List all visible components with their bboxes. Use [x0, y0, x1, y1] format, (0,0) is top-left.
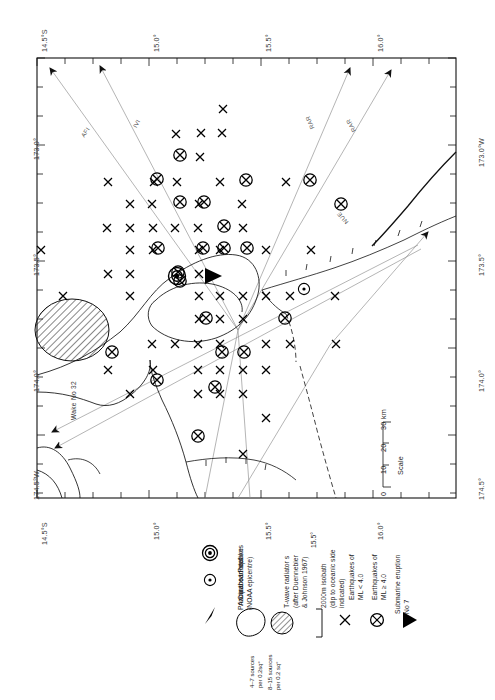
wake-label: Wake No 32	[70, 381, 77, 420]
earthquake-crosses	[37, 105, 340, 458]
axis-label-top-0: 14.5°S	[40, 29, 49, 52]
scale-tick-0: 0	[379, 492, 388, 496]
legend-isobath-icon	[316, 609, 322, 637]
legend-bullseye-icon	[203, 546, 218, 561]
axis-label-top-2: 15.5°	[264, 34, 273, 52]
axis-label-top-3: 16.0°	[376, 34, 385, 52]
legend-label-twave-2: (after Duennebier	[292, 555, 300, 608]
axis-label-bottom-1: 15.0°	[152, 522, 161, 540]
legend-circled-cross-icon	[371, 614, 384, 627]
legend-label-ml-lt4-2: ML < 4.0	[357, 574, 365, 600]
legend-label-azimuths: Azimuths to stations	[237, 545, 245, 606]
earthquake-circled-crosses	[106, 149, 347, 442]
scale-tick-30: 30	[379, 422, 388, 430]
legend-label-eruption-1: Submarine eruption	[394, 555, 402, 614]
axis-label-left-3: 174.5°W	[32, 471, 41, 500]
legend-label-ml-ge4-1: Earthquakes of	[371, 554, 379, 600]
axis-label-left-2: 174.0°	[32, 370, 41, 392]
axis-label-right-2: 174.0°	[477, 370, 486, 392]
curacoa-reef-symbol	[298, 283, 309, 294]
top-axis-ticks	[37, 58, 429, 66]
scale-title: Scale	[396, 456, 405, 475]
legend-arrow-icon	[205, 607, 215, 624]
map-figure: 14.5°S 15.0° 15.5° 16.0° 14.5°S 15.0° 15…	[0, 0, 495, 700]
scale-bar	[383, 422, 391, 487]
legend-density-8-15-1: 8–15 sources	[267, 655, 274, 690]
submarine-eruption-symbol	[205, 268, 222, 284]
legend-cross-icon	[340, 615, 350, 625]
legend-density-4-7-1: 4–7 sources	[249, 656, 256, 688]
legend-label-principal-2: (NOAA epicentre)	[246, 557, 254, 610]
axis-label-bottom-0: 14.5°S	[40, 522, 49, 545]
right-axis-ticks	[448, 58, 456, 493]
axis-label-left-0: 173.0°	[32, 138, 41, 160]
legend-label-twave-3: & Johnson 1967)	[301, 557, 309, 608]
legend-density-4-7-2: per 0.2sq°	[257, 661, 264, 688]
legend-label-eruption-2: No 7	[403, 600, 411, 614]
legend-filled-triangle-icon	[403, 612, 417, 628]
legend-label-ml-lt4-1: Earthquakes of	[348, 554, 356, 600]
legend-dot-circle-icon	[204, 574, 215, 585]
legend-open-blob-icon	[237, 609, 265, 637]
hatched-source-region	[35, 299, 109, 361]
legend-label-isobath-1: 2000m isobath	[320, 563, 328, 608]
axis-label-right-3: 174.5°	[477, 478, 486, 500]
axis-label-right-1: 173.5°	[477, 254, 486, 276]
azimuth-lines	[50, 66, 428, 498]
axis-label-right-0: 173.0°W	[477, 138, 486, 167]
legend-hatched-blob-icon	[271, 612, 293, 634]
axis-label-top-1: 15.0°	[152, 34, 161, 52]
scale-unit: km	[379, 409, 388, 419]
legend-label-isobath-2: (dip to oceanic side	[329, 549, 337, 608]
legend-density-8-15-2: per 0.2 sq°	[275, 661, 282, 690]
legend-label-twave-1: T-wave radiator s	[283, 556, 291, 608]
legend-label-ml-ge4-2: ML ≥ 4.0	[380, 574, 388, 600]
axis-label-left-1: 173.5°	[32, 254, 41, 276]
legend-label-isobath-3: indicated)	[338, 579, 346, 608]
map-frame	[37, 58, 456, 498]
legend-angle-label: 15.5°	[310, 532, 318, 548]
scale-tick-20: 20	[379, 444, 388, 452]
scale-tick-10: 10	[379, 466, 388, 474]
bottom-axis-ticks	[37, 490, 429, 498]
